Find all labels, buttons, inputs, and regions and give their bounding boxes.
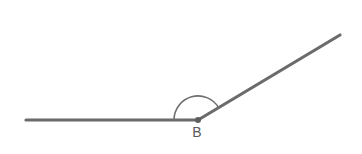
vertex-point-b bbox=[195, 117, 201, 123]
angle-diagram-canvas: B bbox=[0, 0, 362, 154]
angle-diagram-svg: B bbox=[0, 0, 362, 154]
vertex-label-b: B bbox=[192, 124, 202, 140]
interior-angle-arc bbox=[174, 96, 219, 120]
